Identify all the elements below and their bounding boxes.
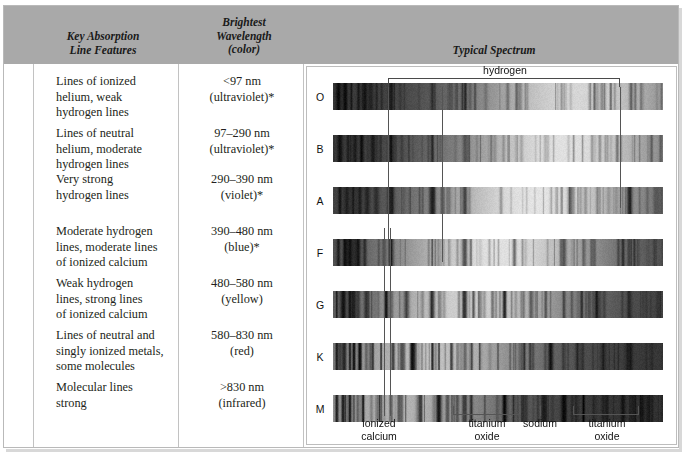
page-shadow-right <box>679 8 682 452</box>
header-key-absorption: Key AbsorptionLine Features <box>28 30 178 57</box>
spectrum-band-b <box>333 135 663 162</box>
titanium-oxide-right-label: titaniumoxide <box>565 417 649 442</box>
spectrum-band-o <box>333 83 663 110</box>
brightest-wavelength-f: 390–480 nm(blue)* <box>186 224 298 255</box>
header-brightest-wavelength: BrightestWavelength(color) <box>184 16 304 57</box>
hydrogen-label: hydrogen <box>430 64 580 76</box>
titanium-oxide-right-bracket <box>573 406 639 415</box>
calcium-guide-line-b <box>390 228 391 406</box>
spectral-class-label-k: K <box>313 351 327 363</box>
sodium-tick <box>540 406 541 416</box>
column-rule-3 <box>303 64 304 447</box>
hydrogen-bracket <box>388 78 620 87</box>
spectral-class-label-g: G <box>313 299 327 311</box>
brightest-wavelength-o: <97 nm(ultraviolet)* <box>186 74 298 105</box>
figure-root: Key AbsorptionLine Features BrightestWav… <box>0 0 685 457</box>
key-features-a: Very stronghydrogen lines <box>56 172 182 203</box>
calcium-tick-b <box>390 406 391 416</box>
ionized-calcium-label: ionizedcalcium <box>337 417 421 442</box>
spectrum-band-g <box>333 291 663 318</box>
hydrogen-guide-line-right <box>620 87 621 208</box>
spectral-class-label-o: O <box>313 91 327 103</box>
key-features-g: Weak hydrogenlines, strong linesof ioniz… <box>56 276 182 323</box>
key-features-f: Moderate hydrogenlines, moderate linesof… <box>56 224 182 271</box>
hydrogen-guide-line-left <box>388 87 389 262</box>
key-features-b: Lines of neutralhelium, moderatehydrogen… <box>56 126 182 173</box>
header-typical-spectrum: Typical Spectrum <box>310 44 678 58</box>
spectral-class-label-f: F <box>313 247 327 259</box>
column-rule-1 <box>33 64 34 447</box>
page-shadow-bottom <box>6 449 682 452</box>
spectrum-band-k <box>333 343 663 370</box>
spectrum-band-f <box>333 239 663 266</box>
table-header-band: Key AbsorptionLine Features BrightestWav… <box>4 6 678 64</box>
brightest-wavelength-a: 290–390 nm(violet)* <box>186 172 298 203</box>
calcium-guide-line-a <box>384 228 385 406</box>
brightest-wavelength-g: 480–580 nm(yellow) <box>186 276 298 307</box>
key-features-m: Molecular linesstrong <box>56 380 182 411</box>
key-features-o: Lines of ionizedhelium, weakhydrogen lin… <box>56 74 182 121</box>
brightest-wavelength-m: >830 nm(infrared) <box>186 380 298 411</box>
sodium-label: sodium <box>508 417 572 430</box>
titanium-oxide-left-bracket <box>453 406 521 415</box>
spectral-class-label-m: M <box>313 403 327 415</box>
spectral-class-label-a: A <box>313 195 327 207</box>
hydrogen-guide-line-mid <box>442 87 443 262</box>
key-features-k: Lines of neutral andsingly ionized metal… <box>56 328 182 375</box>
brightest-wavelength-b: 97–290 nm(ultraviolet)* <box>186 126 298 157</box>
spectrum-band-a <box>333 187 663 214</box>
brightest-wavelength-k: 580–830 nm(red) <box>186 328 298 359</box>
spectral-class-label-b: B <box>313 143 327 155</box>
calcium-tick-a <box>384 406 385 416</box>
